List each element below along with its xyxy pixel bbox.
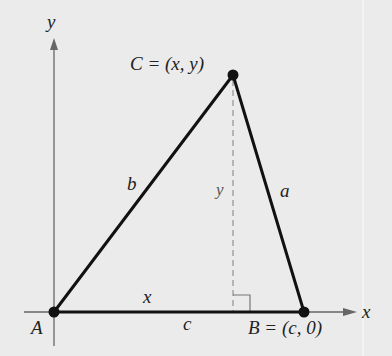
triangle-diagram: y x C = (x, y) A B = (c, 0) b a c x y [0,0,392,356]
vertex-c-point [228,70,239,81]
y-axis-label: y [45,11,56,32]
segment-x-label: x [142,286,152,307]
right-angle-marker [233,295,250,312]
vertex-b-point [299,307,310,318]
side-b-label: b [127,173,137,194]
vertex-a-point [49,307,60,318]
vertex-c-label: C = (x, y) [130,53,204,75]
side-c-label: c [183,313,192,334]
vertex-b-label: B = (c, 0) [248,317,322,339]
side-a-label: a [280,180,290,201]
y-axis [50,38,58,346]
vertex-a-label: A [29,317,43,338]
x-axis-label: x [361,301,371,322]
triangle [54,75,304,312]
height-y-label: y [214,180,224,199]
